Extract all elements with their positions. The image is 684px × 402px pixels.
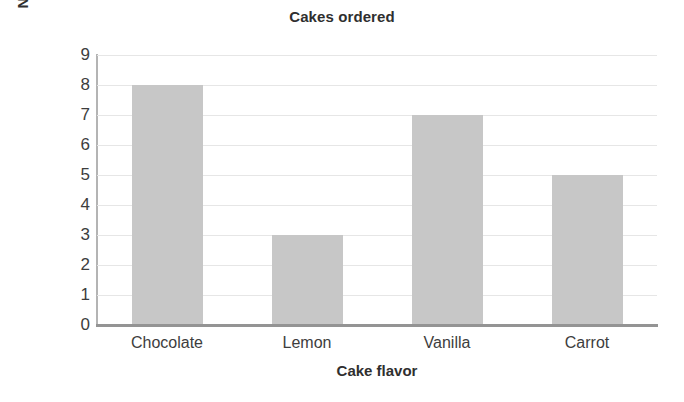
y-tick-label: 9 — [64, 46, 90, 63]
y-tick-label: 2 — [64, 256, 90, 273]
y-tick-label: 0 — [64, 316, 90, 333]
plot-area — [97, 55, 657, 325]
y-tick-label: 8 — [64, 76, 90, 93]
bar — [552, 175, 623, 325]
y-tick-label: 4 — [64, 196, 90, 213]
y-axis-tick-labels: 0123456789 — [58, 55, 90, 325]
x-tick-label: Lemon — [237, 332, 377, 354]
x-tick-label: Vanilla — [377, 332, 517, 354]
bar-chart-figure: Cakes ordered Number of cakes 0123456789… — [0, 0, 684, 402]
bar — [272, 235, 343, 325]
y-axis-title: Number of cakes — [9, 0, 37, 83]
x-axis-title: Cake flavor — [97, 362, 657, 379]
gridline — [97, 55, 657, 56]
x-tick-label: Chocolate — [97, 332, 237, 354]
y-tick-label: 1 — [64, 286, 90, 303]
bar — [132, 85, 203, 325]
bar — [412, 115, 483, 325]
chart-title: Cakes ordered — [0, 8, 684, 25]
y-tick-label: 5 — [64, 166, 90, 183]
y-tick-label: 3 — [64, 226, 90, 243]
y-tick-label: 6 — [64, 136, 90, 153]
x-axis-tick-labels: ChocolateLemonVanillaCarrot — [97, 332, 657, 356]
y-tick-label: 7 — [64, 106, 90, 123]
x-tick-label: Carrot — [517, 332, 657, 354]
x-axis-line — [96, 324, 658, 327]
